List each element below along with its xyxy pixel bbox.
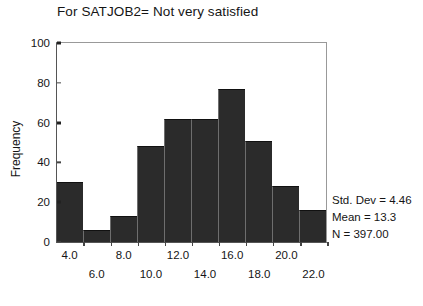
x-axis-tick-label: 18.0 bbox=[248, 268, 270, 280]
x-axis-tick-mark bbox=[165, 242, 166, 246]
y-axis-tick-label: 0 bbox=[44, 236, 57, 248]
x-axis-tick-label: 4.0 bbox=[62, 249, 78, 261]
x-axis-tick-label: 20.0 bbox=[275, 249, 297, 261]
x-axis-tick-mark bbox=[246, 242, 247, 246]
x-axis-tick-mark bbox=[83, 242, 84, 246]
y-axis-tick-label: 40 bbox=[37, 156, 57, 168]
histogram-bars bbox=[57, 43, 326, 242]
x-axis-tick-mark bbox=[138, 242, 139, 246]
x-axis-tick-label: 16.0 bbox=[221, 249, 243, 261]
x-axis-tick-label: 22.0 bbox=[302, 268, 324, 280]
y-axis-label: Frequency bbox=[9, 104, 23, 194]
y-axis-tick-label: 20 bbox=[37, 196, 57, 208]
y-axis-tick-mark bbox=[57, 201, 61, 204]
x-axis-tick-label: 14.0 bbox=[194, 268, 216, 280]
chart-title: For SATJOB2= Not very satisfied bbox=[57, 4, 258, 19]
x-axis-tick-label: 12.0 bbox=[167, 249, 189, 261]
y-axis-tick-mark bbox=[57, 162, 61, 163]
n-value: N = 397.00 bbox=[332, 226, 412, 243]
histogram-bar bbox=[299, 210, 326, 242]
plot-area: 100806040200 bbox=[56, 42, 327, 243]
x-axis-tick-mark bbox=[192, 242, 193, 246]
histogram-bar bbox=[245, 141, 272, 242]
x-axis-tick-label: 8.0 bbox=[116, 249, 132, 261]
histogram-bar bbox=[191, 119, 218, 242]
x-axis-tick-mark bbox=[219, 242, 220, 246]
y-axis-tick-mark bbox=[57, 82, 61, 83]
histogram-bar bbox=[57, 182, 83, 242]
mean-value: Mean = 13.3 bbox=[332, 209, 412, 226]
statistics-annotation: Std. Dev = 4.46 Mean = 13.3 N = 397.00 bbox=[332, 192, 412, 243]
std-dev-value: Std. Dev = 4.46 bbox=[332, 192, 412, 209]
x-axis-tick-label: 6.0 bbox=[89, 268, 105, 280]
y-axis-tick-label: 80 bbox=[37, 77, 57, 89]
y-axis-tick-mark bbox=[57, 42, 61, 45]
y-axis-tick-label: 100 bbox=[31, 37, 57, 49]
y-axis-tick-label: 60 bbox=[37, 117, 57, 129]
x-axis-tick-mark bbox=[300, 242, 301, 246]
x-axis-tick-mark bbox=[327, 242, 328, 246]
x-axis-tick-mark bbox=[273, 242, 274, 246]
histogram-figure: For SATJOB2= Not very satisfied Frequenc… bbox=[0, 0, 423, 306]
histogram-bar bbox=[137, 146, 164, 242]
histogram-bar bbox=[272, 186, 299, 242]
x-axis-tick-mark bbox=[111, 242, 112, 246]
y-axis-tick-mark bbox=[57, 241, 61, 242]
histogram-bar bbox=[218, 89, 245, 242]
y-axis-tick-mark bbox=[57, 121, 61, 124]
x-axis-tick-label: 10.0 bbox=[140, 268, 162, 280]
histogram-bar bbox=[83, 230, 110, 242]
histogram-bar bbox=[110, 216, 137, 242]
histogram-bar bbox=[164, 119, 191, 242]
